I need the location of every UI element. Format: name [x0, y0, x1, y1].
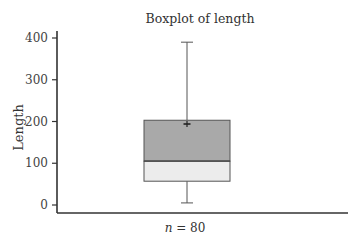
y-axis-ticks: 0100200300400: [25, 31, 57, 212]
box-element: [144, 42, 230, 203]
boxplot-canvas: 0100200300400: [0, 0, 364, 244]
y-tick-label: 300: [25, 73, 48, 87]
y-tick-label: 0: [40, 198, 48, 212]
y-tick-label: 200: [25, 115, 48, 129]
y-tick-label: 100: [25, 156, 48, 170]
lower-box-median-q1: [144, 161, 230, 181]
y-tick-label: 400: [25, 31, 48, 45]
